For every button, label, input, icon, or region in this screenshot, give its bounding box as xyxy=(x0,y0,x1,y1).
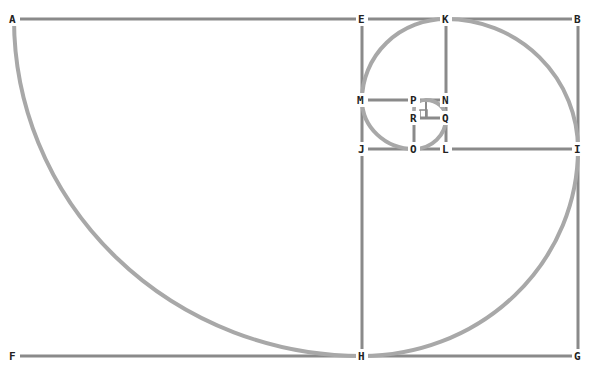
label-Q: Q xyxy=(442,112,449,125)
spiral-arc-H-I xyxy=(362,149,578,356)
label-E: E xyxy=(358,13,365,26)
rectangle-lines xyxy=(14,19,578,356)
label-R: R xyxy=(410,112,417,125)
label-F: F xyxy=(9,350,16,363)
label-B: B xyxy=(574,13,581,26)
label-H: H xyxy=(358,350,365,363)
golden-spiral xyxy=(14,19,578,356)
label-I: I xyxy=(574,143,581,156)
spiral-arc-M-O xyxy=(362,100,414,149)
spiral-arc-K-M xyxy=(362,19,446,100)
spiral-arc-I-K xyxy=(446,19,578,149)
label-A: A xyxy=(9,13,16,26)
label-M: M xyxy=(357,94,364,107)
label-P: P xyxy=(410,94,417,107)
label-O: O xyxy=(410,143,417,156)
label-J: J xyxy=(358,143,365,156)
label-G: G xyxy=(574,350,581,363)
golden-spiral-diagram: A E K B M P N R Q J O L I F H G xyxy=(0,0,592,369)
spiral-arc-A-H xyxy=(14,19,362,356)
label-L: L xyxy=(442,143,449,156)
label-K: K xyxy=(442,13,449,26)
label-N: N xyxy=(442,94,449,107)
